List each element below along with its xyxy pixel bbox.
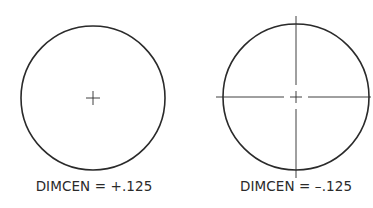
- caption-left: DIMCEN = +.125: [36, 178, 153, 194]
- caption-right: DIMCEN = –.125: [240, 178, 352, 194]
- dimcen-diagram: [0, 0, 373, 208]
- figure-right: [216, 16, 371, 178]
- figure-left: [21, 26, 165, 170]
